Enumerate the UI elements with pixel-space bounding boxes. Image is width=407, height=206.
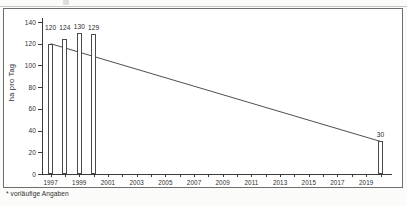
x-axis-tick [122,174,123,177]
x-axis-tick [366,174,367,177]
x-axis-tick [151,174,152,177]
x-axis-tick [94,174,95,177]
x-axis-tick [194,174,195,177]
x-axis-tick-label: 2017 [324,179,350,186]
x-axis-tick [294,174,295,177]
y-axis-tick-label: 0 [14,171,36,178]
x-axis-tick-label: 1999 [66,179,92,186]
y-axis-tick-label: 140 [14,19,36,26]
x-axis-tick-label: 2011 [238,179,264,186]
x-axis-tick [180,174,181,177]
y-axis-tick-label: 80 [14,84,36,91]
bar [48,44,53,174]
x-axis-tick [309,174,310,177]
x-axis-tick-label: 2007 [181,179,207,186]
y-axis-tick-label: 40 [14,127,36,134]
y-axis-tick [38,152,42,153]
bar [91,34,96,174]
x-axis-tick [108,174,109,177]
x-axis-tick-label: 2009 [210,179,236,186]
x-axis-tick [208,174,209,177]
x-axis-tick-label: 1997 [38,179,64,186]
x-axis-tick [237,174,238,177]
x-axis-tick-label: 2001 [95,179,121,186]
bar [77,33,82,174]
x-axis-tick [280,174,281,177]
x-axis-tick-label: 2003 [124,179,150,186]
chart-figure: ha pro Tag 02040608010012014019971999200… [0,0,407,206]
x-axis-tick [251,174,252,177]
x-axis-tick [352,174,353,177]
x-axis-tick [137,174,138,177]
x-axis-tick-label: 2015 [296,179,322,186]
bar-value-label: 30 [371,131,391,138]
y-axis-tick [38,65,42,66]
y-axis-tick [38,109,42,110]
y-axis-tick-label: 20 [14,149,36,156]
x-axis-tick [165,174,166,177]
x-axis-tick [51,174,52,177]
bar [62,39,67,174]
x-axis-tick-label: 2005 [152,179,178,186]
y-axis-tick-label: 120 [14,40,36,47]
y-axis-tick [38,44,42,45]
x-axis-tick [266,174,267,177]
x-axis-tick [381,174,382,177]
x-axis-tick [79,174,80,177]
y-axis-tick-label: 60 [14,105,36,112]
x-axis-tick [223,174,224,177]
y-axis-tick [38,87,42,88]
x-axis-tick-label: 2013 [267,179,293,186]
y-axis-tick-label: 100 [14,62,36,69]
bar [378,141,383,174]
x-axis-tick-label: 2019 [353,179,379,186]
y-axis-tick [38,174,42,175]
plot-area: ha pro Tag 02040608010012014019971999200… [0,0,407,206]
footnote: * vorläufige Angaben [6,190,69,198]
y-axis-tick [38,131,42,132]
bar-value-label: 129 [84,24,104,31]
x-axis-tick [65,174,66,177]
x-axis-tick [323,174,324,177]
x-axis-tick [337,174,338,177]
